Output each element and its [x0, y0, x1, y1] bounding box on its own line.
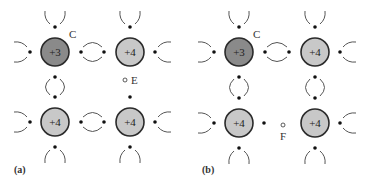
- atom-charge-label: +3: [233, 46, 245, 58]
- edge-bond-left: [198, 113, 216, 133]
- site-label: C: [69, 28, 76, 40]
- electron-dot: [128, 145, 132, 149]
- site-label: C: [253, 28, 260, 40]
- host-atom: +4: [116, 108, 144, 136]
- electron-dot: [313, 75, 317, 79]
- electron-dot: [212, 50, 216, 54]
- electron-dot: [53, 95, 57, 99]
- hole-icon: [123, 78, 127, 82]
- panel-label: (b): [202, 164, 214, 176]
- electron-dot: [79, 120, 83, 124]
- covalent-bond-horizontal: [79, 113, 106, 132]
- electron-dot: [287, 50, 291, 54]
- electron-dot: [313, 96, 317, 100]
- covalent-bond-vertical: [46, 75, 65, 99]
- electron-dot: [102, 50, 106, 54]
- acceptor-atom: +3: [225, 38, 253, 66]
- edge-bond-right: [153, 42, 171, 62]
- atom-charge-label: +4: [309, 117, 321, 129]
- atom-charge-label: +4: [309, 46, 321, 58]
- edge-bond-left: [14, 112, 32, 132]
- hole-icon: [281, 123, 285, 127]
- panel-a: +3+4+4+4CE(a): [14, 11, 171, 176]
- hole-marker: E: [123, 74, 138, 86]
- semiconductor-lattice-diagram: +3+4+4+4CE(a)+3+4+4+4CF(b): [0, 0, 374, 185]
- atom-charge-label: +4: [124, 46, 136, 58]
- edge-bond-left: [14, 42, 32, 62]
- electron-dot: [237, 75, 241, 79]
- electron-dot: [102, 120, 106, 124]
- electron-dot: [338, 121, 342, 125]
- host-atom: +4: [301, 109, 329, 137]
- electron-dot: [153, 120, 157, 124]
- hole-label: F: [280, 130, 286, 142]
- atom-charge-label: +4: [124, 116, 136, 128]
- host-atom: +4: [41, 108, 69, 136]
- electron-dot: [53, 145, 57, 149]
- host-atom: +4: [116, 38, 144, 66]
- covalent-bond-horizontal: [79, 43, 106, 62]
- electron-dot: [28, 50, 32, 54]
- edge-bond-right: [338, 113, 356, 133]
- panel-b: +3+4+4+4CF(b): [198, 11, 356, 176]
- edge-bond-left: [198, 42, 216, 62]
- lone-electron-dot: [128, 95, 132, 99]
- electron-dot: [237, 25, 241, 29]
- edge-bond-down: [45, 145, 65, 163]
- electron-dot: [53, 25, 57, 29]
- edge-bond-down: [120, 145, 140, 163]
- covalent-bond-vertical: [306, 75, 325, 100]
- covalent-bond-horizontal: [263, 43, 291, 62]
- covalent-bond-vertical: [230, 75, 249, 100]
- panel-label: (a): [14, 164, 26, 176]
- electron-dot: [237, 96, 241, 100]
- atom-charge-label: +4: [233, 117, 245, 129]
- lattice-svg: +3+4+4+4CE(a)+3+4+4+4CF(b): [0, 0, 374, 185]
- edge-bond-down: [229, 146, 249, 164]
- hole-label: E: [131, 74, 138, 86]
- edge-bond-right: [153, 112, 171, 132]
- atom-charge-label: +4: [49, 116, 61, 128]
- electron-dot: [313, 146, 317, 150]
- electron-dot: [237, 146, 241, 150]
- host-atom: +4: [301, 38, 329, 66]
- electron-dot: [313, 25, 317, 29]
- hole-marker: F: [280, 123, 286, 142]
- acceptor-atom: +3: [41, 38, 69, 66]
- edge-bond-right: [338, 42, 356, 62]
- electron-dot: [28, 120, 32, 124]
- edge-bond-up: [120, 11, 140, 29]
- edge-bond-up: [305, 11, 325, 29]
- edge-bond-up: [229, 11, 249, 29]
- electron-dot: [79, 50, 83, 54]
- electron-dot: [128, 25, 132, 29]
- edge-bond-up: [45, 11, 65, 29]
- atom-charge-label: +3: [49, 46, 61, 58]
- electron-dot: [338, 50, 342, 54]
- electron-dot: [212, 121, 216, 125]
- electron-dot: [153, 50, 157, 54]
- electron-dot: [53, 75, 57, 79]
- lone-electron-dot: [262, 121, 266, 125]
- electron-dot: [263, 50, 267, 54]
- host-atom: +4: [225, 109, 253, 137]
- edge-bond-down: [305, 146, 325, 164]
